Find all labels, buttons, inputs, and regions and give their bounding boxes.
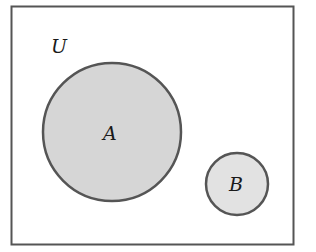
- universe-label: U: [51, 35, 68, 57]
- set-a-label: A: [101, 122, 117, 144]
- venn-diagram: U A B: [0, 0, 316, 252]
- set-b-label: B: [228, 173, 243, 195]
